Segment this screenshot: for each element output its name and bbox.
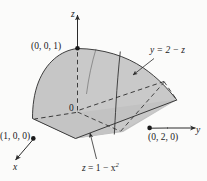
cylinder-equation-label: z = 1 − x2 xyxy=(82,162,119,174)
figure-canvas xyxy=(0,0,207,181)
plane-equation-label: y = 2 − z xyxy=(150,46,185,56)
point-label-y-intercept: (0, 2, 0) xyxy=(148,133,178,143)
point-marker-z-intercept xyxy=(75,46,80,51)
x-axis xyxy=(16,139,34,160)
x-axis-label: x xyxy=(13,163,17,173)
z-axis-label: z xyxy=(71,10,75,20)
origin-label: 0 xyxy=(69,104,74,114)
point-label-x-intercept: (1, 0, 0) xyxy=(0,132,30,142)
cylinder-label-leader xyxy=(90,133,97,159)
point-label-z-intercept: (0, 0, 1) xyxy=(31,42,61,52)
cylinder-equation-exponent: 2 xyxy=(115,161,118,168)
point-marker-y-intercept xyxy=(147,126,152,131)
solid-region-figure: z y x 0 (0, 0, 1) (1, 0, 0) (0, 2, 0) y … xyxy=(0,0,207,181)
y-axis-label: y xyxy=(196,126,200,136)
point-marker-x-intercept xyxy=(31,136,36,141)
cylinder-equation-rhs: 1 − x xyxy=(96,163,116,173)
